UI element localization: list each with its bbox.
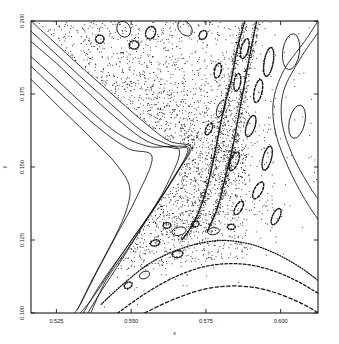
x-tick-label: 0.600 xyxy=(274,318,288,324)
x-tick-label: 0.575 xyxy=(199,318,213,324)
y-tick-label: 0.125 xyxy=(19,233,25,247)
y-tick-label: 0.200 xyxy=(19,14,25,28)
x-tick-label: 0.525 xyxy=(49,318,63,324)
y-tick-label: 0.150 xyxy=(19,160,25,174)
x-axis-label: x xyxy=(173,330,176,336)
poincare-section-figure: 0.5250.5500.5750.6000.1000.1250.1500.175… xyxy=(0,0,339,344)
y-axis-label: y xyxy=(1,165,7,168)
figure-background xyxy=(0,0,339,344)
y-tick-label: 0.175 xyxy=(19,87,25,101)
hyperbolic-x-point xyxy=(191,147,193,149)
x-tick-label: 0.550 xyxy=(124,318,138,324)
y-tick-label: 0.100 xyxy=(19,306,25,320)
plot-canvas: 0.5250.5500.5750.6000.1000.1250.1500.175… xyxy=(0,0,339,344)
